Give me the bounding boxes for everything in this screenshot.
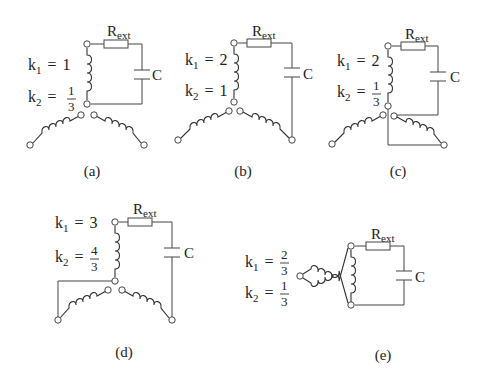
k1-label: k1=3 xyxy=(55,214,98,234)
capacitor-label: C xyxy=(415,269,425,285)
k1-label: k1=2 xyxy=(337,52,380,72)
connection-diagrams: k1=1 k2= 1 3 Rext C (a) k1=2 k2=1 Rext C xyxy=(0,0,484,376)
capacitor-label: C xyxy=(152,67,162,83)
panel-label: (c) xyxy=(390,163,407,180)
terminal-node xyxy=(441,142,447,148)
terminal-node xyxy=(91,112,97,118)
k1-numerator: 2 xyxy=(281,247,288,262)
inductor-coil-icon xyxy=(243,112,289,138)
panel-label: (a) xyxy=(84,163,101,180)
resistor-icon xyxy=(366,242,390,250)
terminal-node xyxy=(84,101,90,107)
panel-d: k1=3 k2= 4 3 Rext C (d) xyxy=(55,201,194,361)
k2-numerator: 1 xyxy=(373,78,380,93)
terminal-node xyxy=(385,103,391,109)
k2-numerator: 1 xyxy=(68,83,75,98)
k1-label: k1= xyxy=(245,253,274,273)
inductor-coil-icon xyxy=(115,226,120,277)
terminal-node xyxy=(231,40,237,46)
k2-numerator: 1 xyxy=(281,278,288,293)
inductor-coil-icon xyxy=(397,117,441,143)
capacitor-icon xyxy=(134,70,150,79)
panel-label: (d) xyxy=(115,344,133,361)
external-circuit-wire xyxy=(238,43,292,137)
capacitor-label: C xyxy=(450,69,460,85)
k2-denominator: 3 xyxy=(373,94,380,109)
resistor-icon xyxy=(104,40,128,48)
inductor-coil-icon xyxy=(351,250,356,302)
terminal-node xyxy=(84,41,90,47)
capacitor-icon xyxy=(430,72,446,81)
resistor-icon xyxy=(401,42,425,50)
terminal-node xyxy=(385,43,391,49)
k2-numerator: 4 xyxy=(91,243,98,258)
inductor-coil-icon xyxy=(388,50,393,102)
k2-label: k2=1 xyxy=(185,82,228,102)
external-circuit-wire xyxy=(119,222,172,317)
terminal-node xyxy=(237,108,243,114)
terminal-node xyxy=(105,287,111,293)
panel-label: (b) xyxy=(234,163,252,180)
inductor-coil-icon xyxy=(124,291,169,318)
k2-denominator: 3 xyxy=(281,294,288,309)
inductor-coil-icon xyxy=(181,112,227,138)
panel-label: (e) xyxy=(375,347,392,364)
terminal-node xyxy=(119,287,125,293)
terminal-node xyxy=(169,317,175,323)
capacitor-label: C xyxy=(184,245,194,261)
inductor-coil-icon xyxy=(60,291,106,318)
resistor-icon xyxy=(128,218,152,226)
k2-label: k2= xyxy=(245,284,274,304)
terminal-node xyxy=(380,112,386,118)
terminal-node xyxy=(112,219,118,225)
k2-denominator: 3 xyxy=(68,99,75,114)
terminal-node xyxy=(175,137,181,143)
k1-denominator: 3 xyxy=(281,263,288,278)
terminal-node xyxy=(289,137,295,143)
resistor-label: Rext xyxy=(252,23,275,41)
resistor-label: Rext xyxy=(405,26,428,44)
panel-e: k1= 2 3 k2= 1 3 Rext C (e) xyxy=(245,226,425,364)
terminal-node xyxy=(27,142,33,148)
terminal-node xyxy=(141,142,147,148)
k2-denominator: 3 xyxy=(91,259,98,274)
inductor-coil-icon xyxy=(33,116,79,143)
panel-c: k1=2 k2= 1 3 Rext C (c) xyxy=(329,26,460,180)
k1-label: k1=1 xyxy=(28,56,71,76)
external-circuit-wire xyxy=(91,44,142,104)
inductor-coil-icon xyxy=(303,271,348,303)
k1-label: k1=2 xyxy=(185,51,228,71)
terminal-node xyxy=(112,278,118,284)
capacitor-label: C xyxy=(303,66,313,82)
resistor-icon xyxy=(247,39,271,47)
resistor-label: Rext xyxy=(133,201,156,219)
inductor-coil-icon xyxy=(303,248,348,281)
inductor-coil-icon xyxy=(335,116,381,142)
resistor-label: Rext xyxy=(107,23,130,41)
terminal-node xyxy=(348,243,354,249)
inductor-coil-icon xyxy=(87,48,92,100)
k2-label: k2= xyxy=(337,83,366,103)
terminal-node xyxy=(391,113,397,119)
k2-label: k2= xyxy=(55,248,84,268)
terminal-node xyxy=(231,99,237,105)
capacitor-icon xyxy=(164,248,180,257)
inductor-coil-icon xyxy=(96,116,141,143)
k2-label: k2= xyxy=(28,88,57,108)
resistor-label: Rext xyxy=(371,226,394,244)
inductor-coil-icon xyxy=(234,47,239,98)
terminal-node xyxy=(226,108,232,114)
terminal-node xyxy=(329,141,335,147)
terminal-node xyxy=(55,317,61,323)
terminal-node xyxy=(348,302,354,308)
panel-b: k1=2 k2=1 Rext C (b) xyxy=(175,23,313,180)
external-circuit-wire xyxy=(355,246,404,305)
panel-a: k1=1 k2= 1 3 Rext C (a) xyxy=(27,23,162,180)
capacitor-icon xyxy=(396,271,412,280)
terminal-node xyxy=(78,112,84,118)
terminal-node xyxy=(297,273,303,279)
capacitor-icon xyxy=(284,68,300,77)
